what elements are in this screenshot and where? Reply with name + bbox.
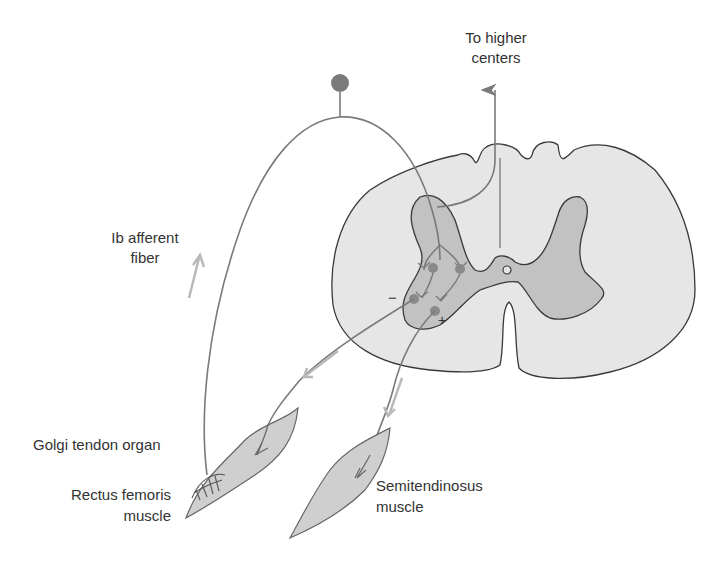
afferent-direction-arrow xyxy=(189,255,204,298)
excitatory-sign: + xyxy=(438,312,446,328)
interneuron-1 xyxy=(428,263,438,273)
reflex-diagram: − + To higher centers Ib afferent fiber … xyxy=(0,0,711,562)
dorsal-root-ganglion-cell xyxy=(331,74,349,92)
label-ib-afferent-2: fiber xyxy=(130,249,159,266)
central-canal xyxy=(503,266,511,274)
efferent-arrow-semitendinosus xyxy=(384,378,402,416)
label-semitendinosus-1: Semitendinosus xyxy=(376,477,483,494)
label-semitendinosus-2: muscle xyxy=(376,498,424,515)
label-golgi-tendon-organ: Golgi tendon organ xyxy=(33,436,161,453)
label-rectus-femoris-2: muscle xyxy=(123,507,171,524)
semitendinosus-muscle xyxy=(290,428,390,538)
label-rectus-femoris-1: Rectus femoris xyxy=(71,486,171,503)
rectus-femoris-muscle xyxy=(186,408,298,518)
label-higher-centers-2: centers xyxy=(471,49,520,66)
label-higher-centers-1: To higher xyxy=(465,29,527,46)
efferent-arrow-rectus xyxy=(304,351,338,377)
inhibitory-sign: − xyxy=(388,289,397,306)
label-ib-afferent-1: Ib afferent xyxy=(111,229,179,246)
interneuron-2 xyxy=(455,264,465,274)
